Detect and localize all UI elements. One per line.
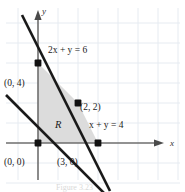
coordinate-plane-svg: y x 2x + y = 6 x + y = 4 R (0, 4) (2, 2)…: [0, 0, 185, 192]
label-point-0-4: (0, 4): [4, 78, 25, 89]
x-axis-label: x: [169, 138, 174, 148]
x-axis-arrowhead: [154, 139, 164, 146]
point-marker-0-0: [35, 140, 42, 147]
point-marker-3-0: [95, 140, 102, 147]
label-point-2-2: (2, 2): [80, 102, 101, 113]
y-axis-label: y: [41, 6, 46, 16]
label-line-2x-plus-y-equals-6: 2x + y = 6: [48, 45, 87, 55]
label-point-0-0: (0, 0): [4, 157, 25, 168]
y-axis-arrowhead: [34, 10, 41, 20]
point-marker-0-4: [35, 60, 42, 67]
label-line-x-plus-y-equals-4: x + y = 4: [89, 120, 124, 130]
axis-group: [6, 10, 164, 180]
label-region-R: R: [54, 119, 62, 130]
figure-caption: Figure 3.23: [56, 183, 93, 192]
label-point-3-0: (3, 0): [57, 157, 78, 168]
graph-figure: y x 2x + y = 6 x + y = 4 R (0, 4) (2, 2)…: [0, 0, 185, 192]
